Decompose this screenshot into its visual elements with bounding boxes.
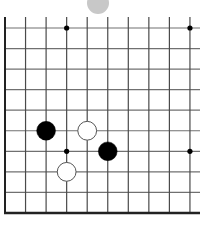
black-stone — [98, 142, 117, 161]
star-point — [64, 25, 69, 30]
star-point — [187, 149, 192, 154]
ghost-stone-layer — [87, 0, 109, 14]
grid-lines — [4, 17, 200, 213]
white-stone — [57, 162, 76, 181]
star-point — [187, 25, 192, 30]
star-point — [64, 149, 69, 154]
black-stone — [37, 121, 56, 140]
go-board[interactable] — [0, 0, 209, 227]
go-board-canvas[interactable] — [0, 0, 209, 227]
white-stone — [78, 121, 97, 140]
ghost-stone — [87, 0, 109, 14]
